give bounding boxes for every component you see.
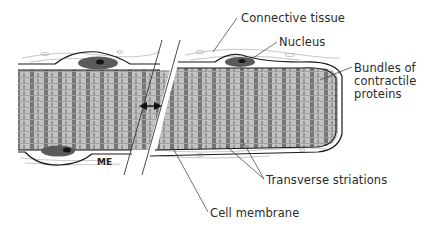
fiber-right-segment [155, 68, 338, 150]
label-bundles-of-contractile-proteins: Bundles of contractile proteins [354, 62, 416, 101]
leader-connective-tissue [213, 18, 237, 52]
nucleus-top-left [78, 57, 118, 70]
nucleus-top-right [225, 57, 255, 67]
nucleus-bottom-left [41, 146, 75, 157]
label-connective-tissue: Connective tissue [241, 12, 345, 25]
label-cell-membrane: Cell membrane [210, 207, 299, 220]
artist-signature: ME [97, 157, 112, 167]
muscle-fiber-diagram [0, 0, 427, 230]
label-nucleus: Nucleus [279, 36, 325, 49]
label-transverse-striations: Transverse striations [266, 174, 387, 187]
